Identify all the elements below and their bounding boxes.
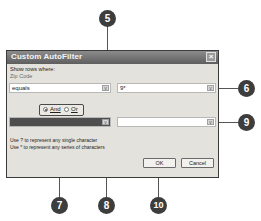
criteria1-operator-combobox[interactable]: equals v — [9, 83, 111, 93]
chevron-down-icon[interactable]: v — [102, 119, 109, 125]
ok-button[interactable]: OK — [143, 158, 176, 168]
callout-badge-5: 5 — [99, 10, 116, 27]
and-radio-label[interactable]: And — [50, 106, 61, 112]
callout-badge-10: 10 — [150, 197, 167, 214]
or-radio-label[interactable]: Or — [71, 106, 78, 112]
callout-badge-6: 6 — [238, 80, 255, 97]
custom-autofilter-dialog: Custom AutoFilter × Show rows where: Zip… — [6, 50, 219, 178]
hint-single-char: Use ? to represent any single character — [10, 137, 97, 143]
callout-badge-8: 8 — [98, 197, 115, 214]
criteria1-operator-value: equals — [12, 85, 30, 91]
criteria2-operator-combobox[interactable]: v — [9, 117, 111, 127]
field-name-label: Zip Code — [10, 73, 32, 79]
and-radio[interactable] — [43, 107, 48, 112]
close-icon[interactable]: × — [206, 52, 216, 62]
criteria1-value: 9* — [120, 85, 126, 91]
or-radio[interactable] — [64, 107, 69, 112]
title-bar[interactable]: Custom AutoFilter × — [7, 51, 218, 64]
criteria2-value-combobox[interactable]: v — [117, 117, 216, 127]
show-rows-label: Show rows where: — [10, 66, 55, 72]
chevron-down-icon[interactable]: v — [102, 85, 109, 91]
callout-badge-9: 9 — [238, 114, 255, 131]
and-or-group: And Or — [39, 104, 84, 116]
chevron-down-icon[interactable]: v — [207, 85, 214, 91]
criteria1-value-combobox[interactable]: 9* v — [117, 83, 216, 93]
dialog-title: Custom AutoFilter — [11, 52, 82, 61]
hint-series-chars: Use * to represent any series of charact… — [10, 144, 105, 150]
chevron-down-icon[interactable]: v — [207, 119, 214, 125]
cancel-button[interactable]: Cancel — [181, 158, 214, 168]
callout-badge-7: 7 — [51, 197, 68, 214]
